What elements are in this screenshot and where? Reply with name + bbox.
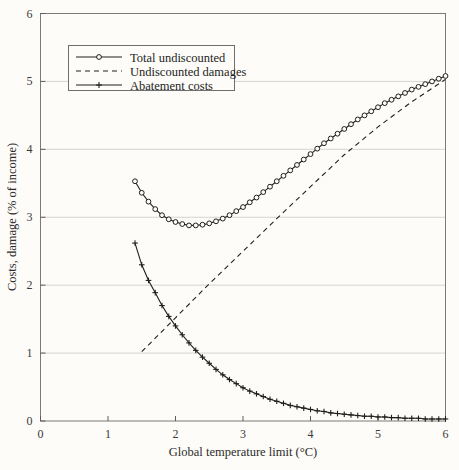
data-point [369,109,374,114]
data-point [315,146,320,151]
series-total-undiscounted [133,74,448,228]
data-point [207,221,212,226]
data-point [234,209,239,214]
data-point [288,168,293,173]
data-point [335,131,340,136]
data-point [436,76,441,81]
data-point [146,199,151,204]
data-point [180,222,185,227]
data-point [241,205,246,210]
x-tick-label-5: 5 [375,427,381,441]
data-point [301,157,306,162]
data-point [430,79,435,84]
y-tick-label-6: 6 [27,7,33,21]
y-tickmarks [41,14,46,422]
data-point [423,82,428,87]
x-tick-labels: 0123456 [38,427,449,441]
y-tick-label-5: 5 [27,74,33,88]
chart-page: 0123456 0123456 Global temperature limit… [0,0,459,470]
legend-marker-circle [97,55,102,60]
cost-damage-chart: 0123456 0123456 Global temperature limit… [0,0,459,470]
data-point [355,117,360,122]
data-point [308,152,313,157]
data-point [153,207,158,212]
data-point [403,91,408,96]
y-tick-label-2: 2 [27,278,33,292]
data-point [268,184,273,189]
data-point [416,84,421,89]
legend-label-1: Undiscounted damages [130,65,246,79]
data-point [322,141,327,146]
series-undiscounted-damages [142,79,446,351]
data-point [409,87,414,92]
data-point [139,190,144,195]
data-point [328,136,333,141]
y-tick-label-4: 4 [27,142,33,156]
data-point [382,101,387,106]
legend-label-2: Abatement costs [130,79,213,93]
data-point [349,122,354,127]
x-tick-label-6: 6 [443,427,449,441]
data-point [295,163,300,168]
data-point [362,113,367,118]
data-point [193,223,198,228]
y-tick-label-3: 3 [27,210,33,224]
series-path-series-damages [142,79,446,351]
data-point [133,179,138,184]
data-point [396,94,401,99]
data-point [443,74,448,79]
data-point [342,127,347,132]
data-point [187,223,192,228]
legend-label-0: Total undiscounted [130,51,226,65]
data-point [160,213,165,218]
x-tick-label-1: 1 [105,427,111,441]
data-point [227,213,232,218]
data-point [254,195,259,200]
data-point [389,97,394,102]
x-tick-label-3: 3 [240,427,246,441]
x-tick-label-4: 4 [308,427,314,441]
data-point [214,219,219,224]
data-point [220,216,225,221]
y-tick-label-1: 1 [27,346,33,360]
data-point [376,105,381,110]
data-point [281,173,286,178]
data-point [274,179,279,184]
series-abatement-costs [132,240,448,422]
y-tick-label-0: 0 [27,414,33,428]
data-point [247,200,252,205]
y-tick-labels: 0123456 [27,7,33,429]
chart-legend: Total undiscountedUndiscounted damagesAb… [69,46,247,93]
x-tick-label-2: 2 [173,427,179,441]
series-path-series-abatement [135,243,446,419]
data-point [261,190,266,195]
data-point [200,222,205,227]
data-point [166,217,171,222]
x-axis-title: Global temperature limit (°C) [169,445,317,459]
data-point [173,220,178,225]
y-axis-title: Costs, damage (% of income) [5,143,19,291]
x-tick-label-0: 0 [38,427,44,441]
